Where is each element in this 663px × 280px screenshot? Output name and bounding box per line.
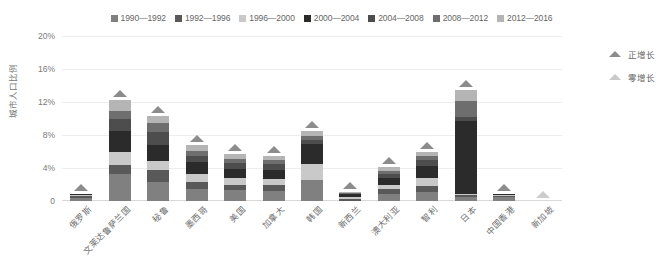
growth-marker-triangle-icon xyxy=(267,146,281,153)
legend-entry-1[interactable]: 1990—1992 xyxy=(111,13,166,23)
legend-entry-6[interactable]: 2008—2012 xyxy=(433,13,488,23)
bar-segment[interactable] xyxy=(455,121,477,194)
growth-marker-triangle-icon xyxy=(113,90,127,97)
bar-segment[interactable] xyxy=(147,123,169,131)
growth-marker-triangle-icon xyxy=(74,184,88,191)
legend-swatch-icon xyxy=(497,15,504,22)
legend-swatch-icon xyxy=(111,15,118,22)
bar-segment[interactable] xyxy=(416,160,438,167)
bar-group[interactable] xyxy=(447,36,485,201)
bar-segment[interactable] xyxy=(301,144,323,164)
bar-group[interactable] xyxy=(331,36,369,201)
bar-segment[interactable] xyxy=(186,174,208,182)
growth-marker-triangle-icon xyxy=(305,121,319,128)
marker-legend-entry-1[interactable]: 正增长 xyxy=(609,48,655,60)
bar-stack[interactable] xyxy=(224,154,246,201)
bar-segment[interactable] xyxy=(378,178,400,185)
bar-segment[interactable] xyxy=(455,101,477,117)
growth-marker-triangle-icon xyxy=(151,106,165,113)
bar-segment[interactable] xyxy=(109,165,131,174)
bar-stack[interactable] xyxy=(416,152,438,201)
y-tick-label: 0 xyxy=(50,196,55,206)
bar-group[interactable] xyxy=(62,36,100,201)
bar-stack[interactable] xyxy=(109,100,131,201)
bar-segment[interactable] xyxy=(416,166,438,178)
bar-segment[interactable] xyxy=(263,185,285,192)
series-legend: 1990—19921992—19961996—20002000—20042004… xyxy=(0,13,663,23)
legend-entry-3[interactable]: 1996—2000 xyxy=(239,13,294,23)
triangle-icon xyxy=(609,74,621,80)
bar-segment[interactable] xyxy=(224,178,246,185)
bar-group[interactable] xyxy=(216,36,254,201)
bar-segment[interactable] xyxy=(147,145,169,162)
bar-segment[interactable] xyxy=(224,169,246,178)
legend-label: 1990—1992 xyxy=(121,13,166,23)
y-tick-label: 12% xyxy=(38,97,55,107)
bar-segment[interactable] xyxy=(147,116,169,123)
legend-label: 2000—2004 xyxy=(314,13,359,23)
bar-group[interactable] xyxy=(524,36,562,201)
legend-entry-7[interactable]: 2012—2016 xyxy=(497,13,552,23)
y-tick-label: 8% xyxy=(43,130,55,140)
legend-entry-4[interactable]: 2000—2004 xyxy=(304,13,359,23)
bar-segment[interactable] xyxy=(186,162,208,174)
bar-segment[interactable] xyxy=(301,164,323,181)
growth-marker-triangle-icon xyxy=(420,142,434,149)
bar-group[interactable] xyxy=(370,36,408,201)
bar-segment[interactable] xyxy=(109,119,131,131)
bar-group[interactable] xyxy=(408,36,446,201)
growth-marker-triangle-icon xyxy=(497,184,511,191)
legend-swatch-icon xyxy=(368,15,375,22)
bar-group[interactable] xyxy=(485,36,523,201)
bar-stack[interactable] xyxy=(186,145,208,201)
bar-segment[interactable] xyxy=(109,152,131,164)
triangle-icon xyxy=(609,51,621,57)
plot-area xyxy=(62,36,562,201)
bar-segment[interactable] xyxy=(186,182,208,189)
legend-swatch-icon xyxy=(175,15,182,22)
bar-stack[interactable] xyxy=(455,90,477,201)
marker-legend-label: 正增长 xyxy=(628,48,655,60)
growth-marker-triangle-icon xyxy=(536,191,550,198)
bar-segment[interactable] xyxy=(109,100,131,111)
legend-entry-2[interactable]: 1992—1996 xyxy=(175,13,230,23)
bar-segment[interactable] xyxy=(147,132,169,145)
growth-marker-triangle-icon xyxy=(343,182,357,189)
y-axis-ticks: 04%8%12%16%20% xyxy=(0,36,62,202)
marker-legend: 正增长零增长 xyxy=(609,48,655,83)
bar-segment[interactable] xyxy=(186,156,208,163)
legend-label: 2008—2012 xyxy=(443,13,488,23)
legend-swatch-icon xyxy=(239,15,246,22)
growth-marker-triangle-icon xyxy=(228,144,242,151)
legend-label: 2012—2016 xyxy=(507,13,552,23)
bar-segment[interactable] xyxy=(109,131,131,152)
bar-group[interactable] xyxy=(100,36,138,201)
bar-segment[interactable] xyxy=(109,174,131,201)
stacked-bar-chart: 1990—19921992—19961996—20002000—20042004… xyxy=(0,0,663,280)
legend-label: 2004—2008 xyxy=(378,13,423,23)
bar-stack[interactable] xyxy=(378,167,400,201)
bar-group[interactable] xyxy=(177,36,215,201)
y-tick-label: 4% xyxy=(43,163,55,173)
growth-marker-triangle-icon xyxy=(190,135,204,142)
y-axis-title: 城市人口比例 xyxy=(6,64,18,118)
bar-stack[interactable] xyxy=(263,156,285,201)
marker-legend-label: 零增长 xyxy=(628,71,655,83)
bar-segment[interactable] xyxy=(109,111,131,118)
bar-segment[interactable] xyxy=(263,170,285,179)
bar-segment[interactable] xyxy=(455,90,477,102)
growth-marker-triangle-icon xyxy=(382,157,396,164)
y-tick-label: 16% xyxy=(38,64,55,74)
legend-swatch-icon xyxy=(433,15,440,22)
legend-swatch-icon xyxy=(304,15,311,22)
marker-legend-entry-2[interactable]: 零增长 xyxy=(609,71,655,83)
legend-label: 1996—2000 xyxy=(249,13,294,23)
bar-group[interactable] xyxy=(293,36,331,201)
legend-entry-5[interactable]: 2004—2008 xyxy=(368,13,423,23)
x-axis-labels: 俄罗斯文莱达鲁萨兰国秘鲁墨西哥美国加拿大韩国新西兰澳大利亚智利日本中国香港新加坡 xyxy=(62,203,562,279)
bar-group[interactable] xyxy=(254,36,292,201)
y-tick-label: 20% xyxy=(38,31,55,41)
legend-label: 1992—1996 xyxy=(185,13,230,23)
growth-marker-triangle-icon xyxy=(459,80,473,87)
